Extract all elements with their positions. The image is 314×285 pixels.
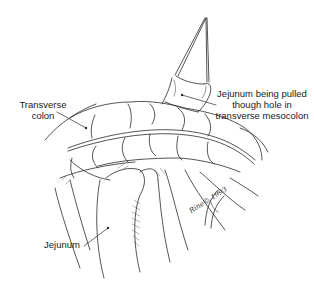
label-line: colon — [14, 110, 72, 121]
pulled-jejunum-loop — [162, 76, 211, 112]
label-transverse-colon: Transverse colon — [14, 99, 72, 121]
label-line: transverse mesocolon — [214, 110, 310, 121]
surgical-illustration: Jejunum being pulled though hole in tran… — [0, 0, 314, 285]
clamp-lines — [175, 18, 209, 82]
label-line: Transverse — [14, 99, 72, 110]
label-line: though hole in — [214, 99, 310, 110]
label-jejunum-being-pulled: Jejunum being pulled though hole in tran… — [214, 88, 310, 121]
label-line: Jejunum being pulled — [214, 88, 310, 99]
leader-lines — [57, 95, 216, 246]
jejunum-loops — [55, 162, 258, 278]
label-jejunum: Jejunum — [38, 239, 86, 250]
shading-hatch — [62, 164, 165, 246]
